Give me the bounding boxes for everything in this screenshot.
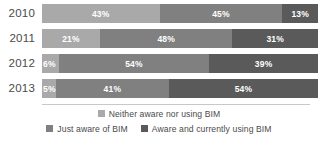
chart-legend: Neither aware nor using BIM Just aware o… (0, 106, 318, 136)
category-label-2010: 2010 (0, 4, 42, 23)
legend-label: Just aware of BIM (57, 124, 127, 134)
bar-segment-using-2012[interactable]: 39% (209, 54, 318, 73)
legend-item-neither-aware[interactable]: Neither aware nor using BIM (98, 109, 221, 119)
category-label-2013: 2013 (0, 79, 42, 98)
legend-swatch-icon (98, 110, 105, 117)
bar-segment-just-aware-2010[interactable]: 45% (160, 4, 283, 23)
bar-segment-just-aware-2012[interactable]: 54% (59, 54, 210, 73)
bar-segment-just-aware-2013[interactable]: 41% (56, 79, 169, 98)
bar-segment-neither-2012[interactable]: 6% (42, 54, 59, 73)
legend-item-just-aware[interactable]: Just aware of BIM (46, 124, 127, 134)
bar-segment-neither-2013[interactable]: 5% (42, 79, 56, 98)
bar-segment-neither-2010[interactable]: 43% (42, 4, 160, 23)
legend-row-1: Neither aware nor using BIM (0, 106, 318, 121)
category-label-2011: 2011 (0, 29, 42, 48)
bar-row: 2012 6% 54% 39% (0, 54, 318, 73)
bar-track-2011: 21% 48% 31% (42, 29, 318, 48)
bar-track-2013: 5% 41% 54% (42, 79, 318, 98)
bar-segment-using-2011[interactable]: 31% (232, 29, 318, 48)
category-label-2012: 2012 (0, 54, 42, 73)
legend-swatch-icon (46, 125, 53, 132)
bar-row: 2011 21% 48% 31% (0, 29, 318, 48)
bar-row: 2010 43% 45% 13% (0, 4, 318, 23)
stacked-bar-chart: 2010 43% 45% 13% 2011 21% 48% 31% 2012 6… (0, 0, 318, 145)
legend-label: Neither aware nor using BIM (109, 109, 221, 119)
legend-swatch-icon (141, 125, 148, 132)
bar-track-2010: 43% 45% 13% (42, 4, 318, 23)
legend-item-aware-using[interactable]: Aware and currently using BIM (141, 124, 272, 134)
bar-segment-neither-2011[interactable]: 21% (42, 29, 100, 48)
bar-segment-using-2010[interactable]: 13% (282, 4, 318, 23)
legend-row-2: Just aware of BIM Aware and currently us… (0, 121, 318, 136)
legend-label: Aware and currently using BIM (152, 124, 272, 134)
bar-track-2012: 6% 54% 39% (42, 54, 318, 73)
bar-segment-using-2013[interactable]: 54% (169, 79, 318, 98)
axis-baseline (42, 104, 310, 105)
plot-area: 2010 43% 45% 13% 2011 21% 48% 31% 2012 6… (0, 4, 318, 106)
bar-row: 2013 5% 41% 54% (0, 79, 318, 98)
bar-segment-just-aware-2011[interactable]: 48% (100, 29, 232, 48)
